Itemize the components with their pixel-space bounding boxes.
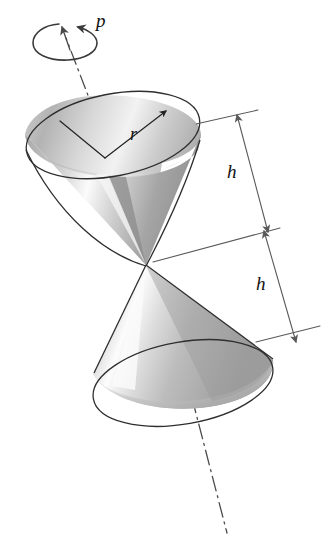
spin-axis-lower-centerline: [192, 398, 227, 533]
height-upper-dimension-arrow: [237, 115, 268, 232]
height-upper-label: h: [227, 161, 237, 182]
spin-rotation-arrow-group: p: [33, 10, 106, 60]
double-cone-diagram: p r: [0, 0, 336, 552]
height-lower-dimension-arrow: [264, 231, 296, 342]
height-shared-extension-line-middle: [153, 228, 280, 262]
spin-rotation-arrow: [33, 24, 97, 60]
upper-cone-group: [19, 78, 207, 266]
spin-axis-arrowhead: [62, 27, 70, 50]
height-upper-extension-line-top: [196, 110, 258, 124]
lower-cone-group: [86, 265, 279, 439]
spin-label-p: p: [94, 10, 106, 31]
height-lower-extension-line-bottom: [256, 326, 320, 342]
radius-label-r: r: [130, 124, 138, 144]
height-lower-label: h: [256, 273, 266, 294]
figure-canvas: p r: [0, 0, 336, 552]
